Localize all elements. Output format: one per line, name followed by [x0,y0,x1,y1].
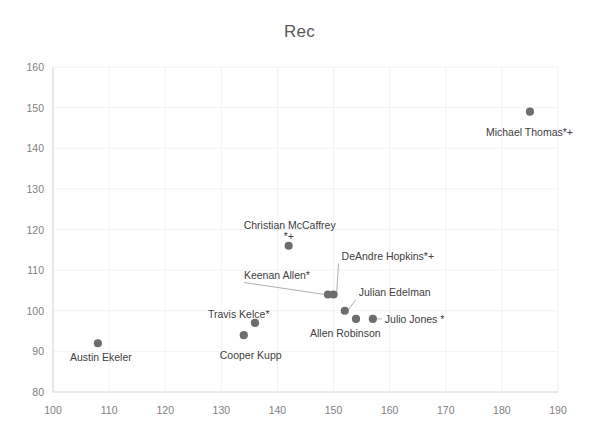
data-point-labels: Austin EkelerCooper KuppTravis Kelce*Chr… [70,126,573,364]
x-tick-130: 130 [213,404,231,416]
y-tick-130: 130 [26,183,44,195]
data-point-label: Keenan Allen* [244,269,310,281]
x-tick-160: 160 [381,404,399,416]
x-tick-170: 170 [437,404,455,416]
x-tick-120: 120 [156,404,174,416]
leader-line [337,264,339,295]
data-point [369,315,377,323]
data-point-label: Austin Ekeler [70,351,132,363]
y-tick-90: 90 [32,345,44,357]
data-point-label: Michael Thomas*+ [486,126,573,138]
y-axis-tick-labels: 8090100110120130140150160 [26,61,44,398]
x-tick-110: 110 [101,404,118,416]
y-tick-160: 160 [26,61,44,73]
x-tick-140: 140 [269,404,287,416]
leader-line [348,300,356,311]
y-tick-140: 140 [26,142,44,154]
asterisk-plus-marker-icon: *+ [284,230,294,242]
data-point-label: Julio Jones * [385,313,445,325]
data-point [526,108,534,116]
leader-line [244,283,325,295]
x-tick-100: 100 [44,404,62,416]
data-point-label: Cooper Kupp [220,349,282,361]
data-point [94,339,102,347]
x-tick-150: 150 [325,404,343,416]
y-tick-80: 80 [32,386,44,398]
data-point [341,307,349,315]
data-point-label: Julian Edelman [359,286,431,298]
y-tick-150: 150 [26,102,44,114]
x-axis-tick-labels: 100110120130140150160170180190 [44,404,567,416]
data-point [251,319,259,327]
y-tick-110: 110 [27,264,44,276]
data-point [240,331,248,339]
x-tick-180: 180 [493,404,511,416]
x-tick-190: 190 [549,404,567,416]
data-point [352,315,360,323]
data-point-label: Travis Kelce* [208,308,269,320]
data-point-label: Allen Robinson [310,327,381,339]
plot-area: 8090100110120130140150160 10011012013014… [0,0,599,444]
y-tick-120: 120 [26,224,44,236]
data-point [285,242,293,250]
scatter-chart: Rec 8090100110120130140150160 1001101201… [0,0,599,444]
y-tick-100: 100 [26,305,44,317]
data-point-label: DeAndre Hopkins*+ [342,250,435,262]
data-point [329,290,337,298]
